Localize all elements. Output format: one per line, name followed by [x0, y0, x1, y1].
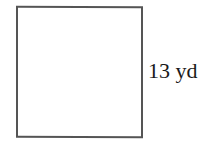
- square-figure: [16, 6, 143, 139]
- side-length-label: 13 yd: [148, 58, 198, 84]
